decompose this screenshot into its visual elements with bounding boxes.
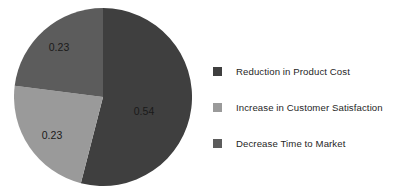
legend-item-increase-in-customer-satisfaction[interactable]: Increase in Customer Satisfaction (213, 89, 403, 125)
pie-slice-value-label: 0.54 (134, 105, 155, 117)
pie-chart-svg: 0.54 0.23 0.23 (14, 8, 192, 186)
legend-swatch-icon (213, 103, 222, 112)
legend-item-decrease-time-to-market[interactable]: Decrease Time to Market (213, 125, 403, 161)
legend-item-label: Increase in Customer Satisfaction (236, 102, 383, 113)
pie-slice-value-label: 0.23 (42, 129, 63, 141)
legend-item-label: Decrease Time to Market (236, 138, 345, 149)
legend-item-label: Reduction in Product Cost (236, 66, 350, 77)
legend-item-reduction-in-product-cost[interactable]: Reduction in Product Cost (213, 53, 403, 89)
legend-swatch-icon (213, 139, 222, 148)
chart-legend: Reduction in Product Cost Increase in Cu… (213, 53, 403, 161)
pie-chart-figure: 0.54 0.23 0.23 Reduction in Product Cost… (0, 0, 406, 193)
pie-slice-value-label: 0.23 (49, 41, 70, 53)
legend-swatch-icon (213, 67, 222, 76)
pie-chart-plot-area: 0.54 0.23 0.23 (14, 8, 192, 186)
